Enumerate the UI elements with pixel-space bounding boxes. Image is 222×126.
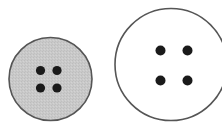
button-hole (156, 76, 166, 86)
button-hole (52, 83, 61, 92)
button-hole (52, 66, 61, 75)
small-button-body (9, 38, 92, 121)
buttons-illustration (0, 0, 222, 126)
large-white-button (115, 9, 222, 121)
large-button-body (115, 9, 222, 121)
button-hole (36, 83, 45, 92)
button-hole (36, 66, 45, 75)
button-hole (156, 46, 166, 56)
button-hole (183, 46, 193, 56)
small-gray-button (9, 38, 92, 121)
button-hole (183, 76, 193, 86)
